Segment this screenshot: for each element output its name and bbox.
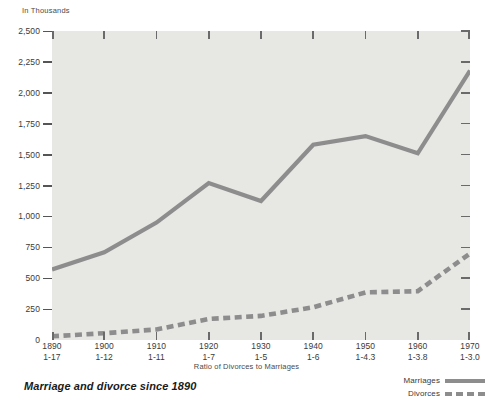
legend-swatch-divorces — [445, 392, 485, 396]
x-axis-caption: Ratio of Divorces to Marriages — [0, 362, 493, 371]
x-axis-year-label: 1960 — [388, 341, 448, 352]
top-tick-mark — [365, 31, 367, 39]
top-tick-mark — [260, 31, 262, 39]
x-axis-year-label: 1910 — [127, 341, 187, 352]
y-axis-tick-mark — [43, 216, 52, 218]
chart-page: In Thousands 2,5002,2502,0001,7501,5001,… — [0, 0, 493, 407]
x-axis-tick-group: 19101-11 — [127, 341, 187, 363]
legend-label-marriages: Marriages — [404, 376, 440, 385]
right-tick-mark — [461, 277, 470, 279]
y-axis-tick-mark — [43, 154, 52, 156]
right-tick-mark — [461, 185, 470, 187]
bottom-tick-mark — [52, 332, 54, 340]
y-axis-tick: 1,250 — [0, 181, 52, 191]
x-axis-tick-group: 19601-3.8 — [388, 341, 448, 363]
divorces-line — [52, 253, 470, 336]
y-axis-tick-mark — [43, 123, 52, 125]
y-axis-tick-label: 250 — [26, 304, 40, 314]
right-tick-mark — [461, 30, 470, 32]
top-tick-mark — [417, 31, 419, 39]
top-tick-mark — [103, 31, 105, 39]
x-axis-tick-group: 19501-4.3 — [336, 341, 396, 363]
y-axis-tick: 500 — [0, 273, 52, 283]
y-axis-tick: 1,500 — [0, 150, 52, 160]
figure-title: Marriage and divorce since 1890 — [24, 380, 196, 392]
top-tick-mark — [208, 31, 210, 39]
top-tick-mark — [312, 31, 314, 39]
top-tick-mark — [52, 31, 54, 39]
y-axis: 2,5002,2502,0001,7501,5001,2501,00075050… — [0, 31, 52, 340]
series-lines — [52, 31, 470, 340]
y-axis-tick-label: 750 — [26, 242, 40, 252]
y-axis-tick-label: 2,500 — [18, 26, 40, 36]
right-tick-mark — [461, 123, 470, 125]
y-axis-tick: 1,750 — [0, 119, 52, 129]
marriages-line — [52, 71, 470, 270]
legend-item-divorces: Divorces — [365, 388, 485, 399]
bottom-tick-mark — [365, 332, 367, 340]
plot-area — [52, 31, 470, 340]
x-axis-tick-group: 19401-6 — [283, 341, 343, 363]
x-axis-year-label: 1890 — [22, 341, 82, 352]
y-axis-tick-label: 1,750 — [18, 119, 40, 129]
y-axis-tick-label: 1,000 — [18, 211, 40, 221]
x-axis-tick-group: 19201-7 — [179, 341, 239, 363]
top-tick-mark — [156, 31, 158, 39]
y-axis-tick-label: 500 — [26, 273, 40, 283]
legend-swatch-marriages — [445, 379, 485, 383]
y-axis-tick: 750 — [0, 242, 52, 252]
y-axis-tick-label: 2,250 — [18, 57, 40, 67]
x-axis-year-label: 1970 — [440, 341, 493, 352]
bottom-tick-mark — [468, 332, 470, 340]
y-axis-tick: 2,250 — [0, 57, 52, 67]
right-tick-mark — [461, 247, 470, 249]
y-axis-tick-mark — [43, 31, 52, 33]
bottom-tick-mark — [417, 332, 419, 340]
x-axis-tick-group: 18901-17 — [22, 341, 82, 363]
x-axis-tick-group: 19701-3.0 — [440, 341, 493, 363]
legend-label-divorces: Divorces — [408, 389, 440, 398]
bottom-tick-mark — [260, 332, 262, 340]
y-axis-tick-label: 2,000 — [18, 88, 40, 98]
y-axis-tick-mark — [43, 247, 52, 249]
y-axis-tick-mark — [43, 92, 52, 94]
right-tick-mark — [461, 308, 470, 310]
y-axis-tick-mark — [43, 185, 52, 187]
x-axis-year-label: 1920 — [179, 341, 239, 352]
bottom-tick-mark — [312, 332, 314, 340]
y-axis-tick-mark — [43, 278, 52, 280]
bottom-tick-mark — [208, 332, 210, 340]
right-tick-mark — [461, 61, 470, 63]
bottom-tick-mark — [103, 332, 105, 340]
y-axis-tick-mark — [43, 61, 52, 63]
y-axis-tick: 1,000 — [0, 211, 52, 221]
right-tick-mark — [461, 216, 470, 218]
x-axis-year-label: 1900 — [74, 341, 134, 352]
x-axis-tick-group: 19001-12 — [74, 341, 134, 363]
y-axis-tick: 2,000 — [0, 88, 52, 98]
y-axis-tick: 250 — [0, 304, 52, 314]
y-axis-tick: 2,500 — [0, 26, 52, 36]
legend: Marriages Divorces — [365, 375, 485, 401]
x-axis-tick-group: 19301-5 — [231, 341, 291, 363]
y-axis-units-caption: In Thousands — [22, 6, 70, 15]
right-tick-mark — [461, 92, 470, 94]
x-axis-year-label: 1930 — [231, 341, 291, 352]
bottom-tick-mark — [156, 332, 158, 340]
right-tick-mark — [461, 154, 470, 156]
y-axis-tick-label: 1,250 — [18, 181, 40, 191]
top-tick-mark — [468, 31, 470, 39]
y-axis-tick-label: 1,500 — [18, 150, 40, 160]
x-axis-year-label: 1940 — [283, 341, 343, 352]
legend-item-marriages: Marriages — [365, 375, 485, 386]
y-axis-tick-mark — [43, 309, 52, 311]
x-axis-year-label: 1950 — [336, 341, 396, 352]
